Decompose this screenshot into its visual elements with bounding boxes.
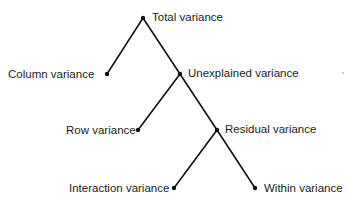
node-label-within: Within variance [264, 181, 343, 195]
node-dot-unexplained [178, 72, 182, 76]
edge-unexplained-row [138, 74, 180, 130]
node-label-row: Row variance [66, 123, 136, 137]
node-dot-column [105, 72, 109, 76]
node-dot-within [253, 186, 257, 190]
node-dot-total [141, 16, 145, 20]
edge-total-unexplained [143, 18, 180, 74]
node-label-interaction: Interaction variance [69, 181, 169, 195]
node-label-residual: Residual variance [225, 122, 316, 136]
node-label-column: Column variance [8, 67, 94, 81]
node-label-unexplained: Unexplained variance [188, 66, 299, 80]
edge-total-column [107, 18, 143, 74]
edge-residual-interaction [174, 130, 217, 188]
node-dot-interaction [172, 186, 176, 190]
edge-residual-within [217, 130, 255, 188]
node-dot-residual [215, 128, 219, 132]
edge-unexplained-residual [180, 74, 217, 130]
node-dot-row [136, 128, 140, 132]
stray-mark [342, 72, 344, 74]
node-label-total: Total variance [152, 10, 223, 24]
